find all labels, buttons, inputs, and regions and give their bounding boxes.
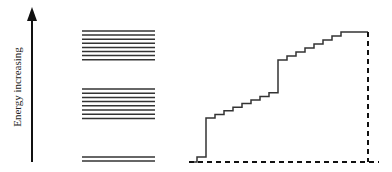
- middle-band: [82, 89, 155, 118]
- energy-axis: Energy increasing: [11, 7, 37, 162]
- energy-levels: [82, 31, 155, 161]
- upper-band: [82, 31, 155, 60]
- axis-label: Energy increasing: [11, 47, 23, 127]
- staircase-plot: [189, 32, 379, 162]
- cumulative-states-staircase: [189, 32, 368, 162]
- energy-level-diagram: Energy increasing: [0, 0, 392, 172]
- lowest-band: [82, 157, 155, 161]
- arrow-head-icon: [27, 7, 37, 21]
